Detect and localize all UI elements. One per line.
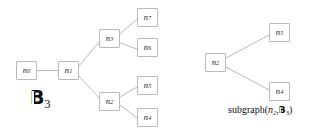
graph-node-n0[interactable]: n0 [16,61,37,80]
node-label-subscript: 2 [110,99,113,105]
blackboard-b-inner-stroke [32,91,34,105]
node-label-subscript: 7 [148,15,151,21]
graph-edge-n2-n5 [120,87,137,97]
node-label-subscript: 2 [216,60,219,66]
node-label-subscript: 3 [110,36,113,42]
graph-edge-n2-n4 [226,67,269,90]
caption-blackboard-b-glyph: B [279,106,286,115]
caption-suffix: ) [289,104,292,115]
node-label-subscript: 0 [27,68,30,74]
graph-edge-n3-n6 [120,43,137,49]
graph-node-n5[interactable]: n5 [269,23,290,42]
graph-figure: n0n1n3n7n6n2n5n4 B3 n2n5n4 subgraph(n2,B… [0,0,316,135]
node-label-subscript: 4 [148,115,151,121]
graph-node-n4[interactable]: n4 [137,108,158,127]
graph-node-n4[interactable]: n4 [269,82,290,101]
graph-node-n6[interactable]: n6 [137,38,158,57]
blackboard-b-glyph: B [30,88,44,107]
graph-edge-n3-n7 [120,19,137,34]
subgraph-caption: subgraph(n2,B3) [228,105,292,117]
node-label-subscript: 5 [148,83,151,89]
left-graph-label: B3 [30,88,50,110]
node-label-subscript: 4 [280,89,283,95]
caption-prefix: subgraph( [228,104,268,115]
node-label-subscript: 6 [148,45,151,51]
right-graph-edges [226,35,269,90]
graph-node-n7[interactable]: n7 [137,8,158,27]
graph-edge-n1-n2 [79,76,99,98]
caption-blackboard-b-inner-stroke [280,107,281,114]
node-label-subscript: 5 [280,30,283,36]
graph-node-n3[interactable]: n3 [99,29,120,48]
graph-edge-n1-n3 [79,42,99,66]
graph-edge-n2-n5 [226,35,269,58]
left-graph-edges [37,19,137,118]
graph-node-n2[interactable]: n2 [205,53,226,72]
graph-edge-n2-n4 [120,105,137,118]
graph-label-subscript: 3 [44,97,50,111]
graph-node-n1[interactable]: n1 [58,61,79,80]
graph-node-n5[interactable]: n5 [137,76,158,95]
graph-node-n2[interactable]: n2 [99,92,120,111]
node-label-subscript: 1 [69,68,72,74]
